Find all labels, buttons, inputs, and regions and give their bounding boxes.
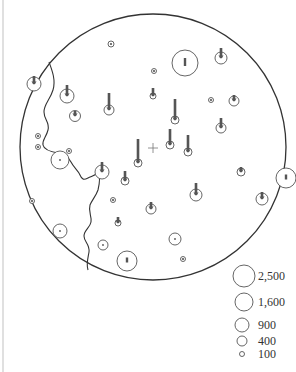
legend-label: 2,500 bbox=[258, 269, 285, 283]
legend-item: 900 bbox=[235, 318, 276, 332]
site-marker bbox=[98, 240, 108, 250]
site-marker bbox=[117, 251, 137, 271]
legend-label: 900 bbox=[258, 318, 276, 332]
center-dot-icon bbox=[59, 230, 61, 232]
center-dot-icon bbox=[37, 135, 39, 137]
center-dot-icon bbox=[37, 146, 39, 148]
legend-circle-icon bbox=[237, 336, 247, 346]
center-dot-icon bbox=[68, 150, 70, 152]
center-dot-icon bbox=[210, 99, 212, 101]
map-diagram: 2,5001,600900400100 bbox=[0, 0, 296, 372]
legend-item: 1,600 bbox=[235, 293, 285, 311]
site-marker bbox=[166, 129, 174, 149]
center-dot-icon bbox=[182, 258, 184, 260]
site-marker bbox=[190, 183, 202, 201]
site-marker bbox=[30, 199, 35, 204]
legend-item: 2,500 bbox=[233, 265, 285, 287]
site-marker bbox=[184, 135, 192, 156]
inner-bar-icon bbox=[184, 58, 186, 66]
diagram-canvas: 2,5001,600900400100 bbox=[0, 0, 296, 372]
center-dot-icon bbox=[153, 70, 155, 72]
center-dot-icon bbox=[110, 43, 112, 45]
site-marker bbox=[276, 168, 296, 188]
inner-bar-icon bbox=[285, 175, 287, 180]
site-marker bbox=[115, 217, 121, 226]
arrow-bar-icon bbox=[187, 135, 190, 152]
center-dot-icon bbox=[59, 159, 61, 161]
site-marker bbox=[172, 50, 198, 76]
legend-circle-icon bbox=[235, 293, 253, 311]
site-marker bbox=[216, 118, 226, 133]
site-marker bbox=[53, 224, 67, 238]
site-marker bbox=[256, 192, 268, 205]
center-dot-icon bbox=[174, 238, 176, 240]
center-dot-icon bbox=[102, 244, 104, 246]
plus-icon bbox=[148, 143, 158, 153]
site-marker bbox=[169, 233, 181, 245]
site-marker bbox=[152, 69, 157, 74]
site-marker bbox=[134, 139, 142, 167]
site-marker bbox=[60, 85, 74, 103]
site-marker bbox=[36, 145, 41, 150]
site-marker bbox=[209, 98, 214, 103]
site-marker bbox=[51, 151, 69, 169]
legend-item: 400 bbox=[237, 334, 276, 348]
legend-label: 100 bbox=[258, 347, 276, 361]
legend-circle-icon bbox=[240, 352, 245, 357]
site-marker bbox=[146, 202, 156, 214]
site-marker bbox=[171, 99, 179, 124]
site-marker bbox=[67, 149, 72, 154]
arrow-bar-icon bbox=[108, 93, 111, 110]
site-marker bbox=[121, 171, 129, 185]
site-marker bbox=[111, 198, 116, 203]
sites-layer bbox=[27, 41, 296, 271]
legend-circle-icon bbox=[233, 265, 255, 287]
site-marker bbox=[181, 257, 186, 262]
arrow-bar-icon bbox=[174, 99, 177, 120]
legend-circle-icon bbox=[235, 318, 249, 332]
site-marker bbox=[36, 134, 41, 139]
site-marker bbox=[70, 111, 81, 122]
legend-label: 400 bbox=[258, 334, 276, 348]
site-marker bbox=[95, 162, 109, 179]
center-dot-icon bbox=[31, 200, 33, 202]
legend-label: 1,600 bbox=[258, 295, 285, 309]
size-legend: 2,5001,600900400100 bbox=[233, 265, 285, 361]
site-marker bbox=[215, 48, 227, 64]
legend-item: 100 bbox=[240, 347, 277, 361]
center-dot-icon bbox=[112, 199, 114, 201]
arrow-bar-icon bbox=[137, 139, 140, 163]
site-marker bbox=[104, 93, 114, 115]
inner-bar-icon bbox=[126, 258, 128, 263]
site-marker bbox=[229, 95, 239, 106]
site-marker bbox=[108, 41, 114, 47]
site-marker bbox=[237, 167, 245, 176]
site-marker bbox=[150, 88, 156, 99]
